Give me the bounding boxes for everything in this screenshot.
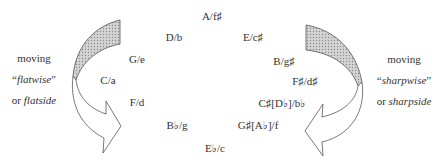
or-prefix: or bbox=[12, 94, 24, 106]
sharpwise-term: sharpwise bbox=[382, 74, 427, 86]
flatwise-arrow-shaded-band bbox=[73, 20, 120, 80]
key-g-e: G/e bbox=[129, 53, 145, 65]
sharpwise-caption-line3: or sharpside bbox=[377, 95, 432, 107]
sharpwise-arrow-body bbox=[305, 82, 363, 156]
flatwise-arrow bbox=[72, 20, 121, 153]
sharpwise-caption-line1: moving bbox=[387, 53, 421, 65]
key-csharp-dflat-bflat: C♯[D♭]/b♭ bbox=[258, 97, 305, 109]
key-c-a: C/a bbox=[100, 74, 115, 86]
flatwise-term: flatwise bbox=[17, 73, 51, 85]
sharpwise-arrow bbox=[305, 25, 363, 156]
flatwise-caption-line3: or flatside bbox=[12, 94, 56, 106]
sharpside-term: sharpside bbox=[389, 95, 432, 107]
key-a-fsharp: A/f♯ bbox=[202, 10, 222, 22]
key-d-b: D/b bbox=[166, 31, 183, 43]
key-bflat-g: B♭/g bbox=[166, 119, 187, 131]
quote-close: ” bbox=[426, 74, 431, 86]
flatside-term: flatside bbox=[24, 94, 56, 106]
flatwise-arrow-body bbox=[72, 76, 121, 153]
key-gsharp-aflat-f: G♯[A♭]/f bbox=[238, 119, 279, 131]
direction-arrows bbox=[0, 0, 437, 164]
key-b-gsharp: B/g♯ bbox=[273, 55, 294, 67]
or-prefix: or bbox=[377, 95, 389, 107]
circle-of-fifths-diagram: A/f♯ D/b E/c♯ G/e B/g♯ C/a F♯/d♯ F/d C♯[… bbox=[0, 0, 437, 164]
flatwise-caption-line1: moving bbox=[17, 52, 51, 64]
key-e-csharp: E/c♯ bbox=[243, 31, 263, 43]
sharpwise-caption-line2: “sharpwise” bbox=[377, 74, 431, 86]
quote-close: ” bbox=[51, 73, 56, 85]
key-eflat-c: E♭/c bbox=[205, 142, 225, 154]
key-fsharp-dsharp: F♯/d♯ bbox=[292, 75, 318, 87]
flatwise-caption-line2: “flatwise” bbox=[12, 73, 56, 85]
key-f-d: F/d bbox=[130, 96, 145, 108]
